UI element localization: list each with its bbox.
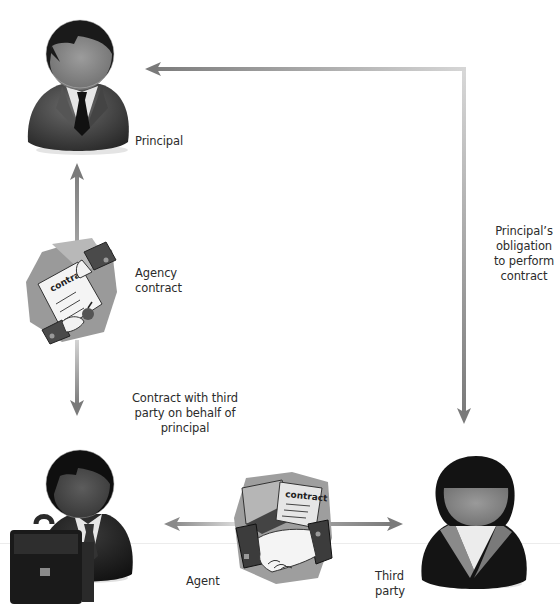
handshake-contract-icon: contract bbox=[232, 468, 336, 588]
businessman-icon bbox=[22, 12, 132, 157]
agent-label: Agent bbox=[186, 574, 220, 589]
principal-obligation-label: Principal’s obligation to perform contra… bbox=[488, 224, 560, 284]
signed-contract-icon: contract bbox=[22, 232, 122, 347]
principal-label: Principal bbox=[135, 134, 183, 149]
businessman-with-briefcase-icon bbox=[0, 440, 140, 612]
principal-node[interactable] bbox=[22, 12, 132, 157]
agency-contract-label: Agency contract bbox=[135, 266, 182, 296]
third-party-contract-label: Contract with third party on behalf of p… bbox=[120, 391, 250, 436]
third-party-label: Third party bbox=[375, 569, 405, 599]
businesswoman-icon bbox=[418, 452, 530, 592]
agency-contract-clipart: contract bbox=[22, 232, 122, 347]
principal-obligation-arrow bbox=[145, 62, 471, 424]
agent-node[interactable] bbox=[0, 440, 140, 612]
third-party-node[interactable] bbox=[418, 452, 530, 592]
handshake-clipart: contract bbox=[232, 468, 336, 588]
